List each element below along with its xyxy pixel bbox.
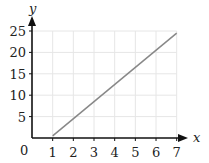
x-tick-labels: 1234567 <box>49 138 181 160</box>
y-tick-labels: 510152025 <box>9 24 32 125</box>
x-axis-arrow-icon <box>178 134 188 142</box>
y-tick-label: 25 <box>9 24 26 39</box>
origin-label: 0 <box>20 143 28 158</box>
x-tick-label: 1 <box>49 145 57 160</box>
y-axis-arrow-icon <box>28 16 36 26</box>
grid-lines <box>32 31 177 138</box>
y-tick-label: 5 <box>18 110 26 125</box>
x-axis-label: x <box>193 130 201 145</box>
y-tick-label: 20 <box>9 45 26 60</box>
chart: 1234567 510152025 0 x y <box>0 0 209 163</box>
y-tick-label: 15 <box>9 67 26 82</box>
y-axis-label: y <box>28 1 37 16</box>
x-tick-label: 6 <box>152 145 160 160</box>
x-tick-label: 5 <box>131 145 139 160</box>
x-tick-label: 2 <box>69 145 77 160</box>
x-tick-label: 7 <box>173 145 181 160</box>
y-tick-label: 10 <box>9 88 26 103</box>
x-tick-label: 3 <box>90 145 98 160</box>
axes <box>28 16 188 142</box>
x-tick-label: 4 <box>111 145 119 160</box>
